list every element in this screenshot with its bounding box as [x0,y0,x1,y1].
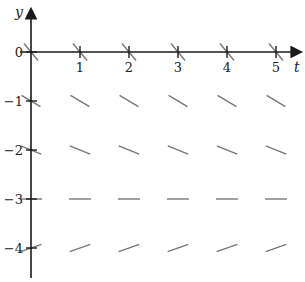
slope-segment [169,95,188,106]
slope-segment [71,95,90,106]
slope-segment [266,146,286,154]
y-tick-label: −3 [4,192,23,207]
slope-segment [70,244,91,251]
slope-segment [70,146,90,154]
y-tick-label: 0 [15,45,23,60]
axis-ticks [26,46,276,248]
slope-segments [20,44,287,252]
y-tick-label: −2 [4,143,23,158]
y-tick-label: −1 [4,94,23,109]
slope-segment [119,146,139,154]
x-tick-label: 2 [125,60,133,75]
x-tick-label: 1 [76,60,84,75]
t-axis-label: t [294,59,300,75]
slope-segment [217,146,237,154]
x-tick-label: 4 [223,60,231,75]
slope-segment [168,146,188,154]
y-tick-label: −4 [4,241,23,256]
slope-field-plot: y t 123450−1−2−3−4 [0,0,305,282]
y-axis-label: y [14,4,24,20]
slope-segment [120,95,139,106]
x-tick-label: 3 [174,60,182,75]
slope-segment [168,244,189,251]
x-tick-label: 5 [272,60,280,75]
tick-labels: 123450−1−2−3−4 [4,45,280,256]
slope-segment [217,244,238,251]
slope-segment [218,95,237,106]
slope-segment [119,244,140,251]
slope-segment [266,244,287,251]
slope-segment [267,95,286,106]
